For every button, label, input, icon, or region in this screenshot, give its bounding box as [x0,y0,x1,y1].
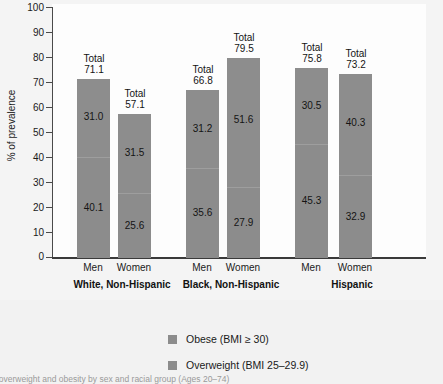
y-tick-label-60: 60 [18,103,44,113]
bar-segment-overweight: 40.1 [77,158,110,258]
segment-value-obese: 31.5 [118,147,151,158]
bar-segment-overweight: 25.6 [118,194,151,258]
bar-hispanic-men[interactable]: Total 75.8 30.5 45.3 [295,68,328,258]
bar-segment-overweight: 32.9 [339,176,372,258]
bar-segment-overweight: 45.3 [295,145,328,258]
bar-segment-obese: 30.5 [295,68,328,145]
segment-value-obese: 51.6 [227,114,260,125]
group-label-hispanic: Hispanic [282,279,422,290]
y-tick-label-70: 70 [18,78,44,88]
y-tick-label-50: 50 [18,128,44,138]
figure-caption-text: ce of overweight and obesity by sex and … [0,374,443,384]
legend-item-obese[interactable]: Obese (BMI ≥ 30) [168,330,398,348]
segment-value-obese: 30.5 [295,100,328,111]
segment-value-overweight: 27.9 [227,217,260,228]
bar-total-label-white-men: Total 71.1 [64,53,124,75]
segment-value-obese: 31.2 [186,123,219,134]
bar-total-label-black-men: Total 66.8 [173,64,233,86]
y-tick-label-90: 90 [18,28,44,38]
legend-swatch-obese-icon [168,335,177,344]
y-tick-label-10: 10 [18,228,44,238]
bar-hispanic-women[interactable]: Total 73.2 40.3 32.9 [339,74,372,257]
legend-item-overweight[interactable]: Overweight (BMI 25–29.9) [168,356,398,374]
bar-segment-obese: 40.3 [339,74,372,176]
segment-value-overweight: 32.9 [339,211,372,222]
figure-caption: ce of overweight and obesity by sex and … [0,374,443,384]
x-tick-label-white-women: Women [104,262,164,273]
bar-total-label-white-women: Total 57.1 [105,88,165,110]
bar-white-women[interactable]: Total 57.1 31.5 25.6 [118,114,151,257]
segment-value-overweight: 40.1 [77,202,110,213]
legend-label-obese: Obese (BMI ≥ 30) [186,333,269,345]
bar-total-label-black-women: Total 79.5 [214,32,274,54]
x-tick-label-hispanic-women: Women [325,262,385,273]
group-label-black: Black, Non-Hispanic [161,279,301,290]
y-tick-label-100: 100 [18,3,44,13]
segment-value-overweight: 35.6 [186,207,219,218]
y-tick-label-30: 30 [18,178,44,188]
y-tick-label-0: 0 [18,252,44,262]
bar-black-men[interactable]: Total 66.8 31.2 35.6 [186,90,219,257]
segment-value-overweight: 25.6 [118,220,151,231]
bar-black-women[interactable]: Total 79.5 51.6 27.9 [227,58,260,257]
legend-swatch-overweight-icon [168,361,177,370]
y-tick-label-40: 40 [18,153,44,163]
x-tick-label-black-women: Women [213,262,273,273]
bar-segment-overweight: 27.9 [227,188,260,258]
bar-segment-obese: 51.6 [227,58,260,188]
y-tick-label-80: 80 [18,53,44,63]
bar-segment-obese: 31.5 [118,114,151,194]
bar-segment-overweight: 35.6 [186,169,219,258]
legend-label-overweight: Overweight (BMI 25–29.9) [186,359,309,371]
x-axis-group-labels: White, Non-Hispanic Black, Non-Hispanic … [52,279,426,295]
y-tick-label-20: 20 [18,203,44,213]
bar-segment-obese: 31.2 [186,90,219,169]
segment-value-obese: 31.0 [77,111,110,122]
chart-page: % of prevalence 100 90 80 70 60 50 40 30… [0,0,443,384]
x-axis-tick-labels: Men Women Men Women Men Women [52,262,426,278]
y-axis-tick-labels: 100 90 80 70 60 50 40 30 20 10 0 [8,0,44,270]
segment-value-overweight: 45.3 [295,195,328,206]
bar-series-group: Total 71.1 31.0 40.1 Total 57.1 31.5 25.… [52,7,426,257]
bar-total-label-hispanic-women: Total 73.2 [326,48,386,70]
segment-value-obese: 40.3 [339,117,372,128]
